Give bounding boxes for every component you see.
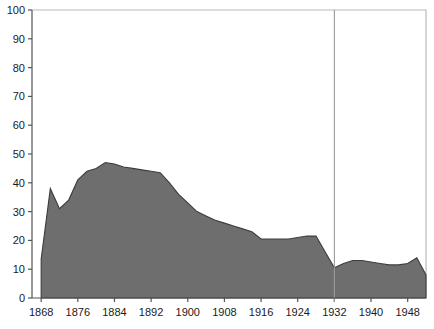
y-axis-tick-label: 0 [19,292,25,304]
y-axis-tick-label: 70 [13,90,25,102]
x-axis-tick-label: 1908 [212,306,236,318]
x-axis-tick-label: 1884 [102,306,126,318]
y-axis-tick-label: 60 [13,119,25,131]
x-axis-tick-label: 1892 [139,306,163,318]
y-axis-tick-label: 90 [13,33,25,45]
area-chart: 0102030405060708090100 18681876188418921… [0,0,434,329]
x-axis-tick-label: 1940 [359,306,383,318]
x-axis-tick-label: 1924 [285,306,309,318]
x-axis-tick-label: 1900 [176,306,200,318]
x-axis-labels: 1868187618841892190019081916192419321940… [29,306,420,318]
y-axis-tick-label: 30 [13,206,25,218]
y-axis-tick-label: 40 [13,177,25,189]
x-axis-tick-label: 1932 [322,306,346,318]
data-area-group [41,163,426,298]
chart-canvas: 0102030405060708090100 18681876188418921… [0,0,434,329]
x-axis-tick-label: 1916 [249,306,273,318]
y-axis-labels: 0102030405060708090100 [7,4,25,304]
x-axis-tick-label: 1876 [66,306,90,318]
x-axis-tick-label: 1948 [395,306,419,318]
y-axis-tick-label: 80 [13,62,25,74]
y-axis-tick-label: 100 [7,4,25,16]
y-axis-tick-label: 10 [13,263,25,275]
area-series-path [41,163,426,298]
y-axis-tick-label: 50 [13,148,25,160]
y-axis-tick-label: 20 [13,234,25,246]
x-axis-tick-label: 1868 [29,306,53,318]
